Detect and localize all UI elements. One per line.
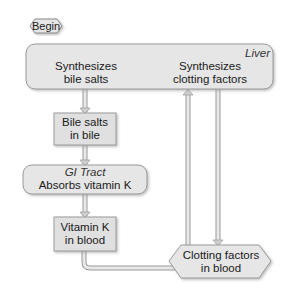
clotting-factors-text: Clotting factors in blood — [176, 249, 266, 275]
bile-line2: in bile — [54, 129, 116, 142]
liver-title-text: Liver — [245, 47, 270, 59]
clotting-line1: Clotting factors — [176, 249, 266, 262]
clotting-line2: in blood — [176, 262, 266, 275]
vitk-line2: in blood — [54, 234, 116, 247]
diagram-canvas — [0, 0, 283, 291]
liver-right-text: Synthesizes clotting factors — [155, 60, 265, 86]
liver-left-line2: bile salts — [44, 73, 128, 86]
gi-tract-desc: Absorbs vitamin K — [23, 179, 147, 192]
bile-salts-text: Bile salts in bile — [54, 116, 116, 142]
gi-tract-text: GI Tract Absorbs vitamin K — [23, 166, 147, 192]
vitamin-k-text: Vitamin K in blood — [54, 221, 116, 247]
vitk-line1: Vitamin K — [54, 221, 116, 234]
liver-left-line1: Synthesizes — [44, 60, 128, 73]
begin-label: Begin — [30, 20, 62, 33]
liver-title: Liver — [140, 47, 270, 60]
gi-tract-title: GI Tract — [23, 166, 147, 179]
liver-left-text: Synthesizes bile salts — [44, 60, 128, 86]
bile-line1: Bile salts — [54, 116, 116, 129]
liver-right-line2: clotting factors — [155, 73, 265, 86]
liver-right-line1: Synthesizes — [155, 60, 265, 73]
